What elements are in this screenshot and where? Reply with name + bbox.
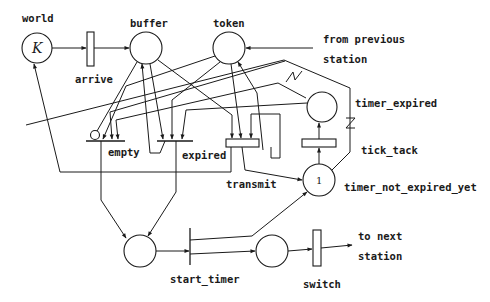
label-tick-tack: tick_tack	[361, 144, 419, 157]
break-mark	[286, 71, 302, 82]
inhibitor-arc	[91, 131, 100, 140]
transition-tick-tack	[302, 139, 336, 147]
marking-one: 1	[316, 175, 322, 186]
place-timer-expired	[307, 92, 337, 122]
label-buffer: buffer	[130, 17, 168, 29]
petri-net-diagram: K world buffer token timer_expired 1 tim…	[0, 0, 490, 302]
place-before-switch	[256, 235, 288, 267]
label-to-next-station: station	[358, 250, 402, 262]
label-arrive: arrive	[75, 73, 113, 85]
place-token	[213, 32, 245, 64]
transition-transmit	[226, 139, 259, 147]
label-from-previous: from previous	[323, 33, 405, 45]
label-to-next: to next	[358, 230, 402, 242]
place-world: K	[22, 33, 52, 63]
label-timer-not-expired-yet: timer_not_expired_yet	[344, 181, 477, 194]
label-timer-expired: timer_expired	[355, 97, 437, 110]
label-world: world	[22, 12, 54, 24]
transition-switch	[313, 230, 321, 266]
transition-arrive	[87, 32, 94, 66]
label-token: token	[213, 17, 245, 29]
place-timer-not-expired-yet: 1	[303, 164, 335, 196]
label-switch: switch	[303, 278, 341, 290]
marking-k: K	[31, 40, 44, 56]
label-from-previous-station: station	[323, 53, 367, 65]
place-before-start-timer	[124, 235, 156, 267]
place-buffer	[130, 32, 162, 64]
label-transmit: transmit	[226, 178, 277, 190]
label-empty: empty	[108, 146, 140, 158]
label-expired: expired	[182, 149, 226, 161]
label-start-timer: start_timer	[170, 273, 240, 286]
